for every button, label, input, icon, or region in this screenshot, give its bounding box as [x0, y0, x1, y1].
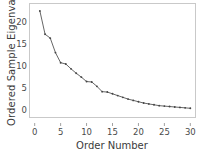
- x-tick-label: 15: [103, 127, 123, 137]
- x-tick-label: 25: [154, 127, 174, 137]
- y-axis-title: Ordered Sample Eigenvalue: [6, 0, 20, 126]
- scree-plot: 05101520 051015202530 Ordered Sample Eig…: [0, 0, 208, 157]
- x-tick-label: 0: [25, 127, 45, 137]
- eigenvalue-line: [40, 11, 190, 108]
- x-axis-title: Order Number: [28, 140, 196, 151]
- x-tick-label: 30: [180, 127, 200, 137]
- x-axis-ticks: 051015202530: [0, 127, 208, 139]
- axis-tickmarks: [35, 123, 191, 126]
- x-tick-label: 10: [77, 127, 97, 137]
- x-tick-label: 5: [51, 127, 71, 137]
- x-tick-label: 20: [128, 127, 148, 137]
